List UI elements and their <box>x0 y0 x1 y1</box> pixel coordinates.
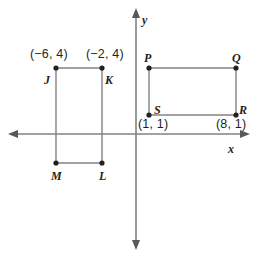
x-axis-arrow-left-icon <box>8 130 18 138</box>
x-axis-label: x <box>228 143 234 155</box>
vertex-label-K: K <box>105 74 113 86</box>
rectangle-PQRS-outline <box>149 68 236 115</box>
vertex-point-P <box>146 65 151 70</box>
vertex-point-Q <box>233 65 238 70</box>
vertex-label-P: P <box>144 52 151 64</box>
vertex-point-K <box>99 65 104 70</box>
rectangle-JKLM-outline <box>56 68 102 163</box>
vertex-label-M: M <box>51 170 62 182</box>
vertex-point-J <box>53 65 58 70</box>
vertex-label-R: R <box>239 104 247 116</box>
coordinate-label-J: (−6, 4) <box>30 48 68 61</box>
coordinate-label-S: (1, 1) <box>138 118 168 131</box>
coordinate-label-K: (−2, 4) <box>86 48 124 61</box>
vertex-label-J: J <box>44 74 50 86</box>
y-axis-label: y <box>142 14 147 26</box>
coordinate-plane-figure: y x J K L M (−6, 4) (−2, 4) P Q R S (1, … <box>0 0 258 257</box>
vertex-label-S: S <box>154 104 161 116</box>
vertex-label-Q: Q <box>232 52 241 64</box>
rectangle-JKLM-group <box>53 65 104 165</box>
axes-group <box>8 8 250 250</box>
vertex-label-L: L <box>99 170 106 182</box>
x-axis-arrow-right-icon <box>240 130 250 138</box>
y-axis-arrow-up-icon <box>132 8 140 18</box>
vertex-point-M <box>53 160 58 165</box>
y-axis-arrow-down-icon <box>132 240 140 250</box>
vertex-point-L <box>99 160 104 165</box>
coordinate-label-R: (8, 1) <box>216 118 246 131</box>
